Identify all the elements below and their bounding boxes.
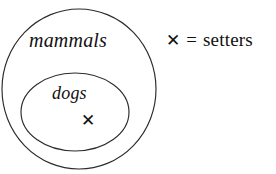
- legend-label-setters: setters: [203, 29, 253, 51]
- outer-set-label-mammals: mammals: [29, 30, 107, 50]
- legend-x-mark-icon: ✕: [166, 32, 180, 49]
- inner-set-label-dogs: dogs: [52, 84, 87, 102]
- member-x-mark-icon: ✕: [81, 112, 95, 129]
- set-diagram-canvas: [0, 0, 276, 174]
- legend: ✕ = setters: [166, 29, 253, 51]
- legend-equals-sign: =: [186, 29, 197, 51]
